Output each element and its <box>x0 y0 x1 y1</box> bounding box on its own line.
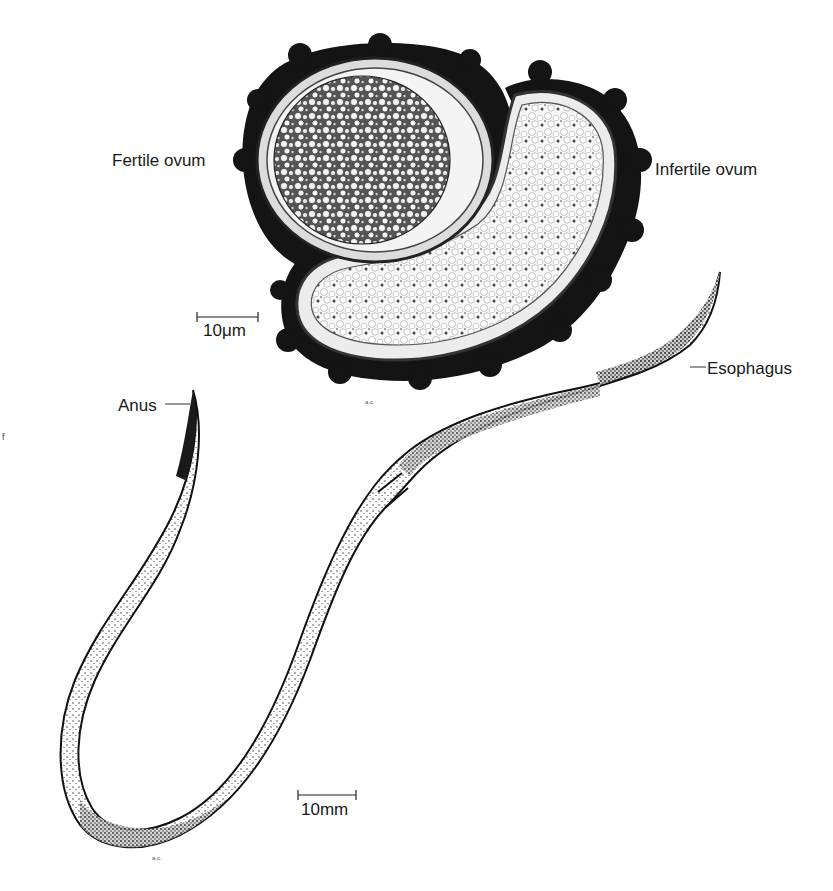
label-fertile-ovum: Fertile ovum <box>112 152 206 169</box>
label-anus: Anus <box>118 397 157 414</box>
illustration-canvas: a.c. a.c. f <box>0 0 833 891</box>
scale-label-ova: 10μm <box>203 322 246 339</box>
label-esophagus: Esophagus <box>707 360 792 377</box>
scale-label-worm: 10mm <box>301 801 348 818</box>
svg-text:a.c.: a.c. <box>365 399 375 405</box>
margin-mark: f <box>2 432 5 442</box>
label-infertile-ovum: Infertile ovum <box>655 161 757 178</box>
svg-text:a.c.: a.c. <box>152 855 162 861</box>
scale-bar-worm <box>298 790 356 800</box>
fertile-ovum-embryo <box>274 76 450 244</box>
ova-illustration: a.c. <box>233 33 652 405</box>
